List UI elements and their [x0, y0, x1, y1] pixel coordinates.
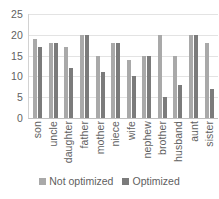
x-label-cell: niece [107, 120, 123, 172]
x-tick-label: son [32, 121, 43, 138]
x-label-cell: uncle [45, 120, 61, 172]
bar [147, 56, 151, 118]
y-tick-label: 10 [11, 71, 23, 82]
bar-group [92, 14, 108, 118]
x-label-cell: sister [201, 120, 217, 172]
bar [205, 43, 209, 118]
y-tick-label: 5 [17, 92, 23, 103]
bar [96, 56, 100, 118]
bar-group [170, 14, 186, 118]
bar-group [46, 14, 62, 118]
x-label-cell: husband [170, 120, 186, 172]
bar-group [108, 14, 124, 118]
bar [194, 35, 198, 118]
bar-group [30, 14, 46, 118]
x-tick-label: niece [110, 121, 121, 147]
chart-legend: Not optimizedOptimized [0, 176, 219, 187]
x-tick-label: brother [157, 121, 168, 155]
legend-item[interactable]: Not optimized [39, 176, 113, 187]
y-tick-label: 15 [11, 50, 23, 61]
bar-group [155, 14, 171, 118]
legend-swatch-icon [122, 178, 129, 185]
bar [69, 68, 73, 118]
bar [49, 43, 53, 118]
x-label-cell: wife [123, 120, 139, 172]
x-tick-label: sister [204, 121, 215, 147]
bar [116, 43, 120, 118]
bar-chart: 0510152025 sonuncledaughterfathermothern… [0, 0, 219, 199]
bar [64, 47, 68, 118]
bar [85, 35, 89, 118]
bar [80, 35, 84, 118]
x-label-cell: son [29, 120, 45, 172]
plot-area [28, 14, 218, 119]
bar-group [139, 14, 155, 118]
legend-label: Not optimized [49, 176, 113, 187]
bars-layer [29, 14, 218, 118]
x-tick-label: nephew [141, 121, 152, 158]
x-tick-label: husband [173, 121, 184, 162]
bar-group [123, 14, 139, 118]
x-tick-label: aunt [188, 121, 199, 142]
bar [111, 43, 115, 118]
x-tick-label: mother [94, 121, 105, 154]
bar [127, 60, 131, 118]
x-label-cell: father [76, 120, 92, 172]
x-tick-label: father [79, 121, 90, 148]
x-label-cell: mother [92, 120, 108, 172]
bar [210, 89, 214, 118]
x-tick-label: uncle [47, 121, 58, 147]
x-axis: sonuncledaughterfathermotherniecewifenep… [28, 120, 218, 172]
bar [142, 56, 146, 118]
bar [178, 85, 182, 118]
y-tick-label: 20 [11, 30, 23, 41]
plot-wrapper: 0510152025 [0, 0, 219, 126]
legend-item[interactable]: Optimized [122, 176, 179, 187]
y-tick-label: 25 [11, 9, 23, 20]
bar [189, 35, 193, 118]
bar-group [186, 14, 202, 118]
legend-swatch-icon [39, 178, 46, 185]
x-tick-label: daughter [63, 121, 74, 163]
bar-group [77, 14, 93, 118]
bar [54, 43, 58, 118]
x-label-cell: daughter [60, 120, 76, 172]
y-axis: 0510152025 [0, 0, 26, 126]
x-label-cell: aunt [186, 120, 202, 172]
bar [158, 35, 162, 118]
x-label-cell: nephew [139, 120, 155, 172]
bar [132, 76, 136, 118]
bar [173, 56, 177, 118]
y-tick-label: 0 [17, 113, 23, 124]
bar-group [201, 14, 217, 118]
bar [163, 97, 167, 118]
bar [38, 47, 42, 118]
bar [33, 39, 37, 118]
bar [101, 72, 105, 118]
bar-group [61, 14, 77, 118]
legend-label: Optimized [132, 176, 179, 187]
x-label-cell: brother [154, 120, 170, 172]
x-tick-label: wife [126, 121, 137, 140]
